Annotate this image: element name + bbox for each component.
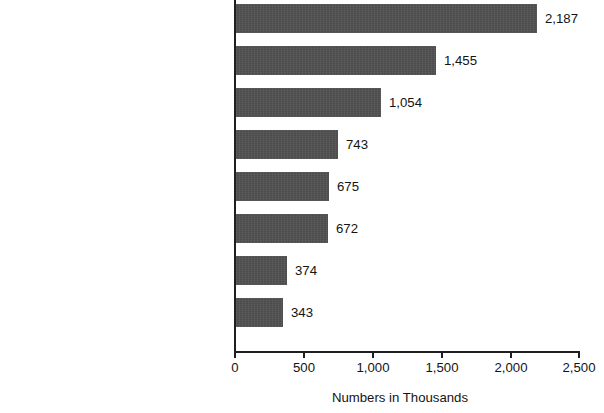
- bar: [236, 172, 329, 201]
- x-axis-tick: [234, 351, 236, 358]
- x-axis-tick: [372, 351, 374, 358]
- value-label: 1,455: [444, 46, 477, 75]
- bar: [236, 298, 283, 327]
- x-axis-tick: [303, 351, 305, 358]
- bar: [236, 4, 537, 33]
- x-axis-tick-label: 0: [231, 359, 238, 376]
- bar: [236, 256, 287, 285]
- x-axis-tick: [510, 351, 512, 358]
- x-axis-tick-label: 500: [293, 359, 315, 376]
- value-label: 1,054: [389, 88, 422, 117]
- plot-area: Self-Help Group 2,187 Outpatient Rehabil…: [0, 0, 604, 413]
- x-axis-tick-label: 2,000: [494, 359, 527, 376]
- y-axis-line: [234, 0, 236, 352]
- x-axis-tick-label: 1,500: [425, 359, 458, 376]
- x-axis-line: [234, 351, 580, 353]
- value-label: 675: [337, 172, 359, 201]
- value-label: 374: [295, 256, 317, 285]
- bar-chart: Self-Help Group 2,187 Outpatient Rehabil…: [0, 0, 604, 413]
- value-label: 2,187: [545, 4, 578, 33]
- x-axis-title: Numbers in Thousands: [0, 389, 604, 407]
- bar: [236, 46, 436, 75]
- value-label: 672: [336, 214, 358, 243]
- x-axis-tick: [578, 351, 580, 358]
- value-label: 343: [291, 298, 313, 327]
- bar: [236, 214, 328, 243]
- bar: [236, 130, 338, 159]
- x-axis-tick: [441, 351, 443, 358]
- x-axis-tick-label: 2,500: [562, 359, 595, 376]
- x-axis-title-text: Numbers in Thousands: [332, 389, 468, 407]
- value-label: 743: [346, 130, 368, 159]
- x-axis-tick-label: 1,000: [356, 359, 389, 376]
- bar: [236, 88, 381, 117]
